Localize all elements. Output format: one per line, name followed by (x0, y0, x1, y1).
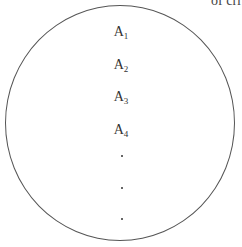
element-a2: A2 (0, 57, 242, 74)
ellipsis-dot-2 (121, 187, 123, 189)
element-a4: A4 (0, 122, 242, 139)
element-a3: A3 (0, 89, 242, 106)
truncated-heading-text: of cri (211, 0, 241, 9)
ellipsis-dot-3 (121, 218, 123, 220)
element-a1: A1 (0, 24, 242, 41)
ellipsis-dot-1 (121, 155, 123, 157)
